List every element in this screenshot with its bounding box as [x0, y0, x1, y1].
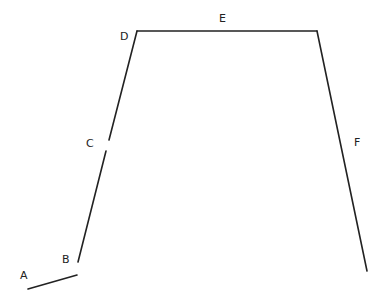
diagram-canvas: A B C D E F [0, 0, 385, 303]
segments [28, 31, 367, 289]
label-a: A [20, 269, 28, 282]
segment-f [317, 31, 367, 271]
label-b: B [62, 253, 70, 266]
segment-b-c [78, 151, 106, 262]
segment-c-d [109, 31, 137, 140]
label-d: D [120, 30, 128, 43]
labels: A B C D E F [20, 12, 360, 282]
label-c: C [86, 137, 94, 150]
label-f: F [354, 136, 360, 149]
segment-a [28, 275, 77, 289]
label-e: E [219, 12, 226, 25]
